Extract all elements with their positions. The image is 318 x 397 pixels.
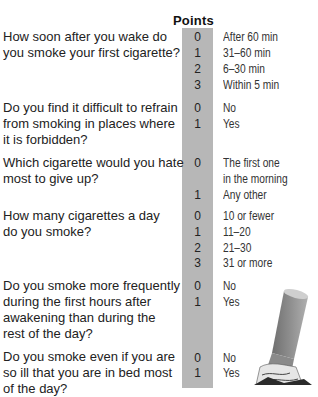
answer-label-continued: in the morning (223, 171, 288, 187)
answer-points: 0 (182, 100, 213, 116)
points-header: Points (173, 13, 214, 28)
answer-points: 1 (182, 187, 213, 203)
answer-points: 1 (182, 365, 213, 381)
cigarette-butt-icon (250, 285, 318, 385)
answer-points: 1 (182, 45, 213, 61)
answer-label: After 60 min (223, 29, 278, 45)
answer-label: 10 or fewer (223, 208, 274, 224)
answer-points: 0 (182, 278, 213, 294)
answer-label: 21–30 (223, 240, 251, 256)
answer-label: Any other (223, 187, 267, 203)
answer-points: 1 (182, 116, 213, 132)
question-2: Do you find it difficult to refrain from… (3, 100, 179, 148)
answer-points: 2 (182, 61, 213, 77)
answer-label: 31–60 min (223, 45, 271, 61)
answer-points: 0 (182, 208, 213, 224)
answer-points: 0 (182, 350, 213, 366)
question-5: Do you smoke more frequently during the … (3, 278, 179, 342)
answer-label: The first one (223, 155, 280, 171)
answer-label: Yes (223, 116, 240, 132)
question-1: How soon after you wake do you smoke you… (3, 29, 179, 61)
answer-label: Yes (223, 294, 240, 310)
question-6: Do you smoke even if you are so ill that… (3, 349, 179, 397)
answer-label: Within 5 min (223, 77, 279, 93)
answer-label: 11–20 (223, 224, 251, 240)
answer-label: No (223, 100, 236, 116)
answer-label: No (223, 350, 236, 366)
answer-label: Yes (223, 365, 240, 381)
answer-points: 3 (182, 77, 213, 93)
answer-points: 0 (182, 29, 213, 45)
question-4: How many cigarettes a day do you smoke? (3, 208, 179, 240)
answer-points: 2 (182, 240, 213, 256)
answer-points: 3 (182, 255, 213, 271)
answer-label: 6–30 min (223, 61, 265, 77)
answer-label: 31 or more (223, 255, 272, 271)
answer-points: 1 (182, 294, 213, 310)
answer-label: No (223, 278, 236, 294)
answer-points: 0 (182, 155, 213, 171)
answer-points: 1 (182, 224, 213, 240)
question-3: Which cigarette would you hate most to g… (3, 155, 179, 187)
